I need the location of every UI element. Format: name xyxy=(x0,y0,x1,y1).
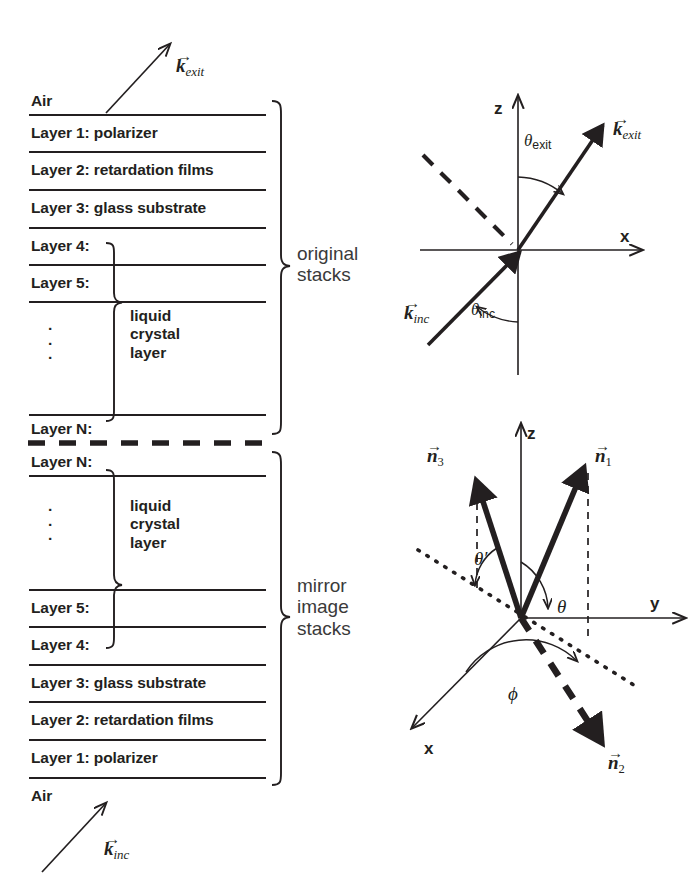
k-exit-stack-label: → kexit xyxy=(176,55,204,80)
coord-bottom-axes xyxy=(412,424,685,728)
k-inc-vector xyxy=(428,252,520,345)
n2-vector xyxy=(521,618,600,740)
n3-label: → n3 xyxy=(427,445,444,470)
n1-vector xyxy=(521,470,583,618)
theta-inc-label: θinc xyxy=(471,300,495,321)
original-layer-5-label: Layer 5: xyxy=(31,274,90,292)
theta-prime-label: θ′ xyxy=(474,548,488,570)
mirror-layer-1-label: Layer 1: polarizer xyxy=(31,749,158,767)
k-inc-stack-label: → kinc xyxy=(104,838,129,863)
original-layer-4-label: Layer 4: xyxy=(31,237,90,255)
original-ellipsis: · · · xyxy=(48,322,53,366)
original-layer-1-label: Layer 1: polarizer xyxy=(31,124,158,142)
mirror-layer-2-label: Layer 2: retardation films xyxy=(31,711,214,729)
mirror-layer-3-label: Layer 3: glass substrate xyxy=(31,674,206,692)
coord-top-k-exit-label: → kexit xyxy=(613,118,641,143)
coord-top-k-inc-label: → kinc xyxy=(404,302,429,327)
original-stacks-group-label: original stacks xyxy=(297,243,358,286)
theta-label: θ xyxy=(557,596,566,618)
original-layer-3-label: Layer 3: glass substrate xyxy=(31,199,206,217)
mirror-stacks-brace xyxy=(272,452,290,785)
n2-label: → n2 xyxy=(608,752,625,777)
original-stacks-brace xyxy=(272,101,290,434)
mirror-stacks-group-label: mirror image stacks xyxy=(297,575,351,639)
original-stack-rules xyxy=(29,115,266,415)
coord-bottom-x-axis-label: x xyxy=(424,739,433,759)
coord-bottom-z-axis-label: z xyxy=(527,424,536,444)
mirror-layer-4-label: Layer 4: xyxy=(31,636,90,654)
original-layer-n-label: Layer N: xyxy=(31,420,92,438)
reflected-ray-dashed xyxy=(423,155,512,244)
original-liquid-crystal-label: liquid crystal layer xyxy=(130,307,180,362)
coord-top-x-axis-label: x xyxy=(620,227,629,247)
original-top-medium-label: Air xyxy=(31,92,52,110)
k-inc-arrow xyxy=(42,803,106,872)
k-exit-arrow xyxy=(106,44,170,113)
mirror-liquid-crystal-label: liquid crystal layer xyxy=(130,497,180,552)
mirror-lc-brace xyxy=(106,470,122,648)
mirror-ellipsis: · · · xyxy=(48,503,53,547)
mirror-layer-5-label: Layer 5: xyxy=(31,599,90,617)
mirror-bottom-medium-label: Air xyxy=(31,787,52,805)
coord-bottom-y-axis-label: y xyxy=(650,594,659,614)
original-lc-brace xyxy=(106,243,122,421)
phi-label: ϕ xyxy=(508,683,518,705)
theta-exit-label: θexit xyxy=(524,131,551,152)
original-layer-2-label: Layer 2: retardation films xyxy=(31,161,214,179)
coord-top-z-axis-label: z xyxy=(494,99,503,119)
n1-label: → n1 xyxy=(595,445,612,470)
mirror-layer-n-label: Layer N: xyxy=(31,453,92,471)
